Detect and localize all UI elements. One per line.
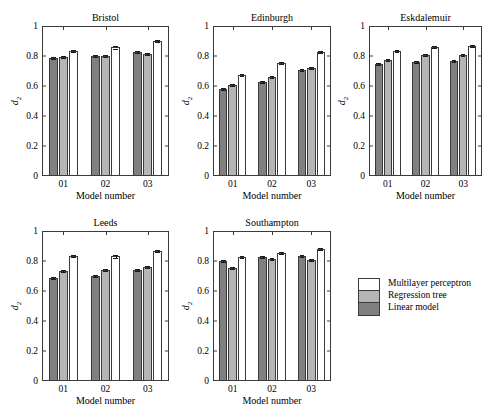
x-axis-tick-label: 01 bbox=[58, 384, 68, 394]
error-bar-cap bbox=[145, 55, 150, 56]
y-axis-tick-mark bbox=[327, 146, 331, 147]
y-axis-tick-mark bbox=[165, 116, 169, 117]
bar bbox=[268, 259, 276, 381]
x-axis-tick-mark bbox=[311, 26, 312, 30]
y-axis-tick-mark bbox=[165, 321, 169, 322]
bar bbox=[393, 51, 401, 176]
error-bar-cap bbox=[230, 84, 235, 85]
error-bar-cap bbox=[155, 252, 160, 253]
y-axis-tick-label: 0.4 bbox=[197, 111, 209, 121]
chart-panel-leeds: Leeds00.20.40.60.81d2010203Model number bbox=[42, 231, 169, 381]
y-axis-tick-mark bbox=[327, 291, 331, 292]
y-axis-tick-mark bbox=[42, 116, 46, 117]
error-bar-cap bbox=[452, 62, 457, 63]
error-bar-cap bbox=[51, 59, 56, 60]
error-bar-cap bbox=[386, 61, 391, 62]
bar bbox=[317, 249, 325, 381]
y-axis-tick-label: 0.4 bbox=[197, 316, 209, 326]
error-bar-cap bbox=[71, 52, 76, 53]
y-axis-label-base: d bbox=[9, 305, 20, 310]
y-axis-tick-label: 0.2 bbox=[26, 346, 38, 356]
error-bar-cap bbox=[470, 45, 475, 46]
error-bar-cap bbox=[61, 58, 66, 59]
error-bar-cap bbox=[221, 88, 226, 89]
y-axis-tick-mark bbox=[213, 261, 217, 262]
x-axis-tick-mark bbox=[233, 231, 234, 235]
x-axis-tick-label: 03 bbox=[143, 179, 153, 189]
error-bar-cap bbox=[145, 268, 150, 269]
legend-swatch bbox=[359, 303, 379, 315]
y-axis-tick-mark bbox=[327, 116, 331, 117]
bar bbox=[384, 60, 392, 176]
x-axis-tick-label: 02 bbox=[267, 384, 277, 394]
chart-panel-edinburgh: Edinburgh00.20.40.60.81d2010203Model num… bbox=[213, 26, 331, 176]
panel-title: Eskdalemuir bbox=[369, 12, 482, 23]
y-axis-tick-mark bbox=[213, 56, 217, 57]
bar bbox=[238, 257, 246, 381]
bar bbox=[298, 256, 306, 381]
error-bar-cap bbox=[145, 266, 150, 267]
legend-swatch-group bbox=[358, 278, 380, 316]
y-axis-tick-label: 0.4 bbox=[26, 111, 38, 121]
error-bar-cap bbox=[240, 74, 245, 75]
bar bbox=[143, 54, 152, 176]
x-axis-tick-mark bbox=[106, 26, 107, 30]
y-axis-tick-mark bbox=[213, 146, 217, 147]
y-axis-tick-mark bbox=[478, 146, 482, 147]
y-axis-tick-mark bbox=[369, 56, 373, 57]
y-axis-label: d2 bbox=[180, 302, 194, 311]
bar bbox=[91, 56, 100, 176]
y-axis-label: d2 bbox=[180, 97, 194, 106]
chart-panel-bristol: Bristol00.20.40.60.81d2010203Model numbe… bbox=[42, 26, 169, 176]
y-axis-tick-label: 1 bbox=[204, 226, 209, 236]
bar bbox=[133, 52, 142, 176]
x-axis-tick-mark bbox=[272, 26, 273, 30]
x-axis-label: Model number bbox=[42, 190, 169, 201]
y-axis-tick-mark bbox=[213, 291, 217, 292]
x-axis-tick-mark bbox=[148, 26, 149, 30]
x-axis-tick-mark bbox=[463, 26, 464, 30]
error-bar-cap bbox=[414, 63, 419, 64]
bar bbox=[277, 253, 285, 381]
y-axis-tick-mark bbox=[42, 321, 46, 322]
error-bar-cap bbox=[155, 250, 160, 251]
y-axis-tick-mark bbox=[369, 116, 373, 117]
error-bar-cap bbox=[155, 40, 160, 41]
y-axis-tick-label: 0 bbox=[204, 376, 209, 386]
y-axis-label-base: d bbox=[336, 100, 347, 105]
error-bar-cap bbox=[93, 57, 98, 58]
error-bar-cap bbox=[279, 62, 284, 63]
error-bar-cap bbox=[113, 49, 118, 50]
y-axis-tick-label: 0.2 bbox=[197, 141, 209, 151]
bar bbox=[69, 51, 78, 176]
error-bar-cap bbox=[103, 57, 108, 58]
panel-title: Leeds bbox=[42, 217, 169, 228]
error-bar-cap bbox=[113, 46, 118, 47]
y-axis-tick-label: 0 bbox=[33, 376, 38, 386]
error-bar-cap bbox=[432, 48, 437, 49]
error-bar-cap bbox=[318, 248, 323, 249]
y-axis-tick-mark bbox=[327, 56, 331, 57]
error-bar-cap bbox=[260, 258, 265, 259]
y-axis-tick-mark bbox=[42, 56, 46, 57]
panel-title: Bristol bbox=[42, 12, 169, 23]
y-axis-tick-label: 0.8 bbox=[353, 51, 365, 61]
figure-canvas: Bristol00.20.40.60.81d2010203Model numbe… bbox=[0, 0, 488, 405]
error-bar-cap bbox=[309, 69, 314, 70]
bar bbox=[153, 41, 162, 176]
y-axis-tick-label: 0.8 bbox=[26, 256, 38, 266]
error-bar-cap bbox=[270, 258, 275, 259]
error-bar-cap bbox=[230, 269, 235, 270]
y-axis-tick-label: 0.8 bbox=[26, 51, 38, 61]
y-axis-tick-label: 0 bbox=[360, 171, 365, 181]
bar bbox=[375, 64, 383, 176]
y-axis-tick-mark bbox=[165, 261, 169, 262]
y-axis-tick-label: 0.6 bbox=[26, 286, 38, 296]
bar bbox=[277, 63, 285, 176]
error-bar-cap bbox=[270, 78, 275, 79]
y-axis-tick-mark bbox=[42, 146, 46, 147]
legend-swatch bbox=[359, 291, 379, 303]
y-axis-tick-mark bbox=[42, 291, 46, 292]
y-axis-tick-label: 0.6 bbox=[353, 81, 365, 91]
bar bbox=[431, 47, 439, 176]
